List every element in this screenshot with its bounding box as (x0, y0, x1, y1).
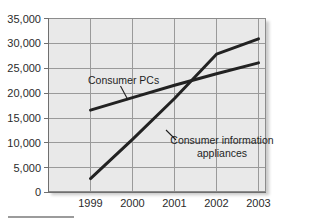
y-axis-labels: 35,000 30,000 25,000 20,000 15,000 10,00… (7, 13, 41, 199)
ytick-label-30000: 30,000 (7, 37, 41, 49)
ytick-label-5000: 5,000 (13, 162, 41, 174)
ytick-label-25000: 25,000 (7, 62, 41, 74)
y-axis-ticks (44, 19, 48, 193)
figure-container: 35,000 30,000 25,000 20,000 15,000 10,00… (0, 0, 315, 223)
x-axis-labels: 1999 2000 2001 2002 2003 (78, 197, 270, 209)
plot-area (48, 18, 266, 193)
xtick-label-2000: 2000 (120, 197, 144, 209)
xtick-label-1999: 1999 (78, 197, 102, 209)
annotation-consumer-information-appliances-line1: Consumer information (170, 134, 273, 146)
ytick-label-0: 0 (35, 186, 41, 198)
ytick-label-15000: 15,000 (7, 112, 41, 124)
annotation-consumer-pcs: Consumer PCs (88, 74, 159, 86)
ytick-label-10000: 10,000 (7, 137, 41, 149)
xtick-label-2001: 2001 (162, 197, 186, 209)
ytick-label-20000: 20,000 (7, 87, 41, 99)
ytick-label-35000: 35,000 (7, 13, 41, 25)
xtick-label-2002: 2002 (204, 197, 228, 209)
annotation-consumer-information-appliances-line2: appliances (197, 147, 247, 159)
plot-background (48, 18, 266, 192)
xtick-label-2003: 2003 (246, 197, 270, 209)
line-chart: 35,000 30,000 25,000 20,000 15,000 10,00… (0, 0, 315, 223)
